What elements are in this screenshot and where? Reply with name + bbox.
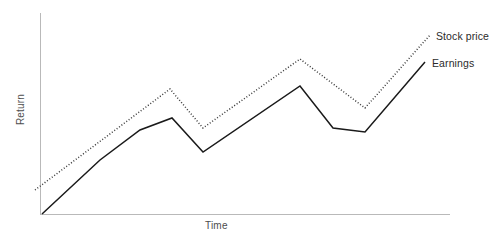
chart-plot-area [0,0,500,245]
x-axis-label: Time [205,220,228,231]
y-axis-label: Return [15,83,26,137]
line-chart: Return Time Stock price Earnings [0,0,500,245]
legend-label-stock-price: Stock price [436,30,489,42]
legend-label-earnings: Earnings [432,57,474,69]
series-line-earnings [42,62,425,214]
series-line-stock-price [35,35,430,190]
